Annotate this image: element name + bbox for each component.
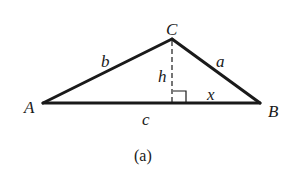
side-a xyxy=(172,39,260,103)
vertex-label-c: C xyxy=(166,20,178,39)
triangle-diagram: C A B b a c h x (a) xyxy=(0,0,293,169)
segment-label-x: x xyxy=(206,85,215,104)
triangle-figure: C A B b a c h x (a) xyxy=(0,0,293,169)
side-b xyxy=(43,39,172,103)
side-label-c: c xyxy=(142,110,150,129)
right-angle-marker xyxy=(173,91,186,102)
vertex-label-a: A xyxy=(23,98,35,117)
altitude-label-h: h xyxy=(158,67,167,86)
figure-caption: (a) xyxy=(134,147,152,165)
side-label-a: a xyxy=(216,52,225,71)
vertex-label-b: B xyxy=(268,102,279,121)
side-label-b: b xyxy=(101,52,110,71)
